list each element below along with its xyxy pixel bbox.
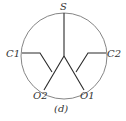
figure-caption: (d) — [54, 104, 68, 114]
circuit-diagram-d: S C1 C2 O2 O1 (d) — [0, 0, 126, 121]
label-c1: C1 — [6, 49, 20, 59]
label-s: S — [60, 2, 67, 12]
label-o2: O2 — [33, 91, 48, 101]
label-o1: O1 — [80, 91, 95, 101]
label-c2: C2 — [107, 49, 121, 59]
branch-line-c2 — [76, 53, 106, 72]
branch-line-c1 — [22, 53, 52, 72]
leg-line-o1 — [64, 56, 84, 90]
leg-line-o2 — [44, 56, 64, 90]
